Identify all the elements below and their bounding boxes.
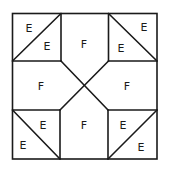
label-br-outer: E [138, 141, 145, 154]
corner-diagonal-tl [13, 14, 62, 62]
label-bl-inner: E [40, 119, 47, 132]
label-left-f: F [38, 80, 44, 93]
label-bottom-f: F [81, 119, 87, 132]
corner-diagonal-tr [109, 14, 158, 62]
corner-diagonal-br [108, 110, 157, 159]
label-tr-outer: E [141, 21, 148, 34]
label-tr-inner: E [118, 42, 125, 55]
label-right-f: F [124, 80, 130, 93]
label-bl-outer: E [20, 139, 27, 152]
label-br-inner: E [120, 119, 127, 132]
label-tl-outer: E [26, 22, 33, 35]
quilt-diagram: E E E E E E E E F F F F [0, 0, 170, 173]
label-tl-inner: E [44, 40, 51, 53]
label-top-f: F [81, 38, 87, 51]
